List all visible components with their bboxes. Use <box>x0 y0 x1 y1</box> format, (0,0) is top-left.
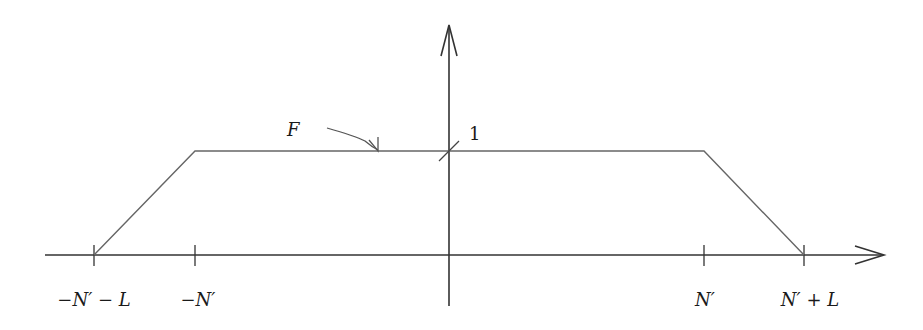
trapezoid-diagram: F 1 −N′ − L −N′ N′ N′ + L <box>0 0 923 330</box>
height-label: 1 <box>469 123 480 144</box>
tick-label-neg-np-minus-l: −N′ − L <box>57 289 130 310</box>
function-label: F <box>286 119 301 140</box>
tick-label-neg-np: −N′ <box>181 289 216 310</box>
f-pointer-arrow <box>327 128 378 150</box>
f-pointer-arrowhead-icon <box>369 137 378 151</box>
tick-label-np-plus-l: N′ + L <box>780 289 839 310</box>
tick-label-np: N′ <box>694 289 715 310</box>
